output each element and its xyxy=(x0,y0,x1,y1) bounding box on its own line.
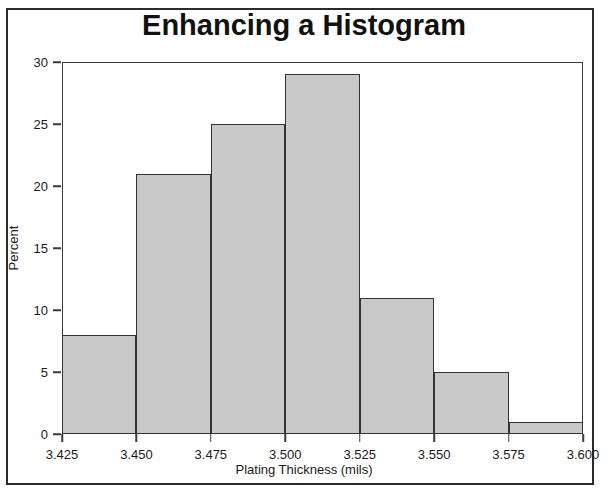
x-tick-mark xyxy=(285,434,287,442)
x-tick-mark xyxy=(433,434,435,442)
x-tick-label: 3.525 xyxy=(343,447,376,462)
x-tick-mark xyxy=(508,434,510,442)
x-tick-mark xyxy=(359,434,361,442)
x-tick-label: 3.600 xyxy=(567,447,600,462)
x-axis-title: Plating Thickness (mils) xyxy=(0,462,608,477)
x-tick-mark xyxy=(210,434,212,442)
x-tick-label: 3.575 xyxy=(492,447,525,462)
x-tick-label: 3.475 xyxy=(195,447,228,462)
x-tick-mark xyxy=(582,434,584,442)
x-axis: 3.4253.4503.4753.5003.5253.5503.5753.600 xyxy=(0,0,608,499)
x-tick-label: 3.450 xyxy=(120,447,153,462)
x-tick-label: 3.550 xyxy=(418,447,451,462)
x-tick-label: 3.425 xyxy=(46,447,79,462)
histogram-figure: Enhancing a Histogram 051015202530 Perce… xyxy=(0,0,608,499)
x-tick-label: 3.500 xyxy=(269,447,302,462)
x-tick-mark xyxy=(61,434,63,442)
x-tick-mark xyxy=(136,434,138,442)
